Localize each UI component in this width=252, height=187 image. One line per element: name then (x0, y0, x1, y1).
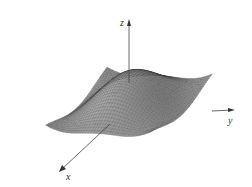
x-axis-label: x (65, 171, 71, 182)
z-axis-label: z (119, 17, 124, 28)
y-axis-arrow-icon (228, 108, 235, 112)
z-axis-arrow-icon (127, 19, 131, 26)
surface-plot: z y x (0, 0, 252, 187)
y-axis-label: y (227, 115, 233, 126)
